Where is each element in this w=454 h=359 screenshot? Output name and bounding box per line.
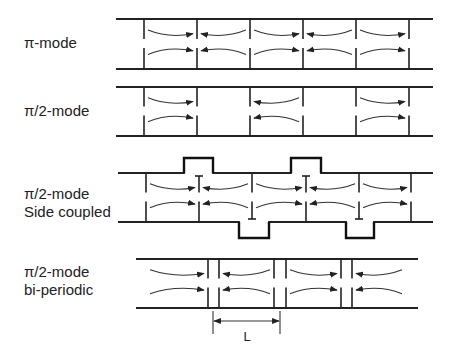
field-arrow-right <box>150 202 195 207</box>
field-arrow-left <box>203 184 248 189</box>
field-arrow-right <box>150 184 195 189</box>
field-arrow-right <box>150 270 204 275</box>
field-arrow-right <box>150 288 204 293</box>
field-arrow-right <box>363 184 407 189</box>
field-arrow-left <box>254 98 299 103</box>
field-arrow-left <box>356 270 402 275</box>
field-arrow-right <box>254 49 299 54</box>
row-pi-mode <box>116 19 433 69</box>
field-arrow-right <box>360 30 405 35</box>
coupling-cavity-top <box>184 158 213 173</box>
field-arrow-right <box>256 184 302 189</box>
row-pi-half-mode <box>116 87 433 136</box>
row-pi-half-mode-side-coupled <box>118 158 433 238</box>
cavity-mode-diagram: L <box>0 0 454 359</box>
coupling-cavity-bottom <box>239 222 269 238</box>
field-arrow-left <box>223 288 270 293</box>
field-arrow-right <box>360 116 405 121</box>
field-arrow-right <box>363 202 407 207</box>
field-arrow-left <box>307 49 352 54</box>
field-arrow-right <box>148 49 193 54</box>
field-arrow-right <box>148 98 193 103</box>
field-arrow-right <box>148 116 193 121</box>
row-pi-half-mode-bi-periodic <box>136 259 418 308</box>
field-arrow-right <box>254 30 299 35</box>
dimension-label: L <box>244 329 251 344</box>
field-arrow-left <box>201 49 246 54</box>
field-arrow-right <box>256 202 302 207</box>
coupling-cavity-bottom <box>346 222 374 238</box>
coupling-cavity-top <box>291 158 321 173</box>
top-boundary <box>118 158 433 173</box>
field-arrow-right <box>148 30 193 35</box>
field-arrow-left <box>307 30 352 35</box>
field-arrow-left <box>356 288 402 293</box>
field-arrow-left <box>203 202 248 207</box>
field-arrow-right <box>360 98 405 103</box>
bottom-boundary <box>118 222 433 238</box>
field-arrow-left <box>254 116 299 121</box>
length-dimension: L <box>213 311 280 344</box>
field-arrow-right <box>360 49 405 54</box>
field-arrow-left <box>310 202 355 207</box>
field-arrow-left <box>223 270 270 275</box>
field-arrow-left <box>310 184 355 189</box>
field-arrow-right <box>290 270 337 275</box>
field-arrow-left <box>201 30 246 35</box>
field-arrow-right <box>290 288 337 293</box>
